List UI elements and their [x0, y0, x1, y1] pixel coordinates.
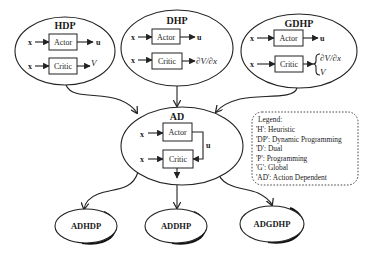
- legend-heading: Legend:: [258, 115, 282, 124]
- adhdp-module: ADHDP: [55, 209, 117, 244]
- legend-entry: 'AD': Action Dependent: [256, 173, 328, 182]
- hdp-critic-input: x: [28, 62, 32, 71]
- hdp-actor-label: Actor: [54, 38, 73, 47]
- gdhp-critic-input: x: [250, 60, 254, 69]
- legend-entry: 'D': Dual: [256, 144, 282, 153]
- ad-to-adhdp-arrow: [84, 172, 138, 209]
- gdhp-module: GDHP x Actor u x Critic ∂V/∂x V: [241, 14, 357, 88]
- legend: Legend: 'H': Heuristic 'DP': Dynamic Pro…: [252, 112, 358, 185]
- hdp-actor-output: u: [96, 38, 101, 47]
- dhp-actor-output: u: [197, 33, 202, 42]
- ad-module: AD x Actor u x Critic: [121, 107, 243, 185]
- ad-feedback-label: u: [206, 141, 211, 150]
- dhp-actor-label: Actor: [157, 33, 176, 42]
- legend-entry: 'P': Programming: [256, 154, 308, 163]
- hdp-title: HDP: [54, 20, 75, 31]
- adgdhp-module: ADGDHP: [240, 206, 304, 243]
- ad-actor-input: x: [140, 130, 144, 139]
- gdhp-critic-output-1: ∂V/∂x: [320, 53, 341, 63]
- legend-entry: 'H': Heuristic: [256, 125, 296, 134]
- ad-actor-label: Actor: [168, 128, 187, 137]
- ad-critic-input: x: [140, 155, 144, 164]
- addhp-title: ADDHP: [161, 221, 191, 231]
- gdhp-actor-label: Actor: [279, 34, 298, 43]
- gdhp-title: GDHP: [285, 18, 314, 29]
- adhdp-title: ADHDP: [71, 221, 101, 231]
- dhp-actor-input: x: [131, 33, 135, 42]
- legend-entry: 'G': Global: [256, 163, 288, 172]
- gdhp-actor-output: u: [320, 34, 325, 43]
- hdp-module: HDP x Actor u x Critic V: [15, 17, 115, 85]
- legend-entry: 'DP': Dynamic Programming: [256, 135, 342, 144]
- ad-title: AD: [170, 111, 184, 122]
- dhp-critic-output: ∂V/∂x: [196, 56, 217, 66]
- dhp-module: DHP x Actor u x Critic ∂V/∂x: [121, 10, 233, 86]
- gdhp-critic-label: Critic: [280, 60, 299, 69]
- hdp-actor-input: x: [28, 38, 32, 47]
- dhp-critic-label: Critic: [158, 57, 177, 66]
- ad-critic-label: Critic: [169, 155, 188, 164]
- gdhp-to-ad-arrow: [216, 88, 297, 112]
- dhp-critic-input: x: [131, 56, 135, 65]
- hdp-critic-label: Critic: [54, 62, 73, 71]
- hdp-to-ad-arrow: [66, 85, 137, 113]
- dhp-title: DHP: [166, 15, 187, 26]
- gdhp-actor-input: x: [250, 34, 254, 43]
- addhp-module: ADDHP: [145, 209, 207, 244]
- adp-family-diagram: HDP x Actor u x Critic V DHP x Actor u x…: [0, 0, 372, 265]
- adgdhp-title: ADGDHP: [254, 219, 291, 229]
